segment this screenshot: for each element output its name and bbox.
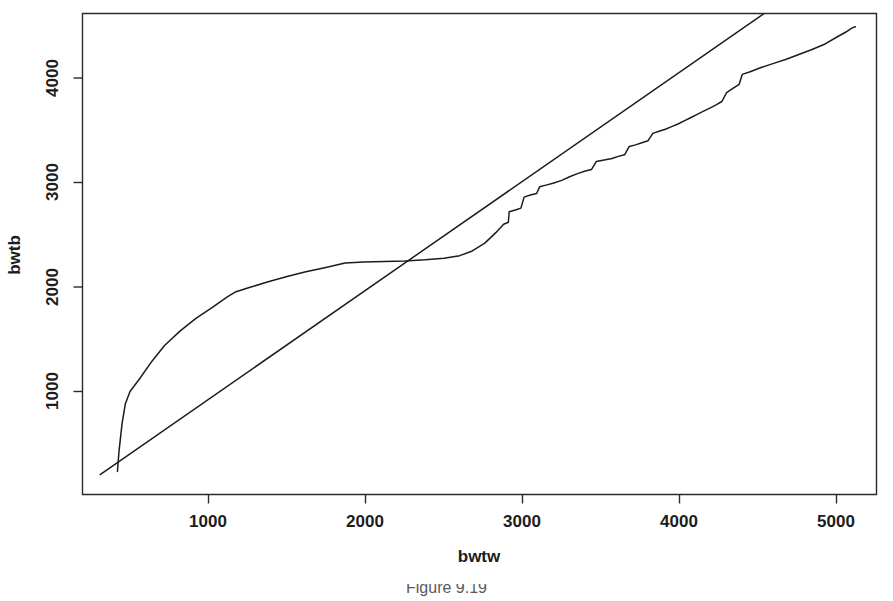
x-tick-label-2000: 2000	[346, 512, 384, 531]
x-tick-labels: 1000 2000 3000 4000 5000	[189, 512, 855, 531]
series-empirical-qq-step-curve	[117, 27, 855, 472]
x-axis-ticks	[209, 495, 837, 504]
figure-caption: Figure 9.19	[0, 584, 893, 597]
plot-frame	[83, 14, 877, 495]
y-axis-title: bwtb	[5, 235, 24, 275]
figure-container: 1000 2000 3000 4000 5000 1000 2000 3000 …	[0, 0, 893, 601]
series-group	[100, 9, 855, 475]
series-reference-diagonal-line	[100, 9, 770, 475]
y-axis-ticks	[74, 78, 83, 392]
x-tick-label-3000: 3000	[503, 512, 541, 531]
x-axis-title: bwtw	[458, 547, 501, 566]
y-tick-label-4000: 4000	[43, 59, 62, 97]
y-tick-labels: 1000 2000 3000 4000	[43, 59, 62, 410]
y-tick-label-3000: 3000	[43, 163, 62, 201]
x-tick-label-1000: 1000	[189, 512, 227, 531]
figure-caption-clip: Figure 9.19	[0, 584, 893, 601]
x-tick-label-5000: 5000	[817, 512, 855, 531]
y-tick-label-2000: 2000	[43, 268, 62, 306]
x-tick-label-4000: 4000	[660, 512, 698, 531]
chart-canvas: 1000 2000 3000 4000 5000 1000 2000 3000 …	[0, 0, 893, 601]
y-tick-label-1000: 1000	[43, 372, 62, 410]
